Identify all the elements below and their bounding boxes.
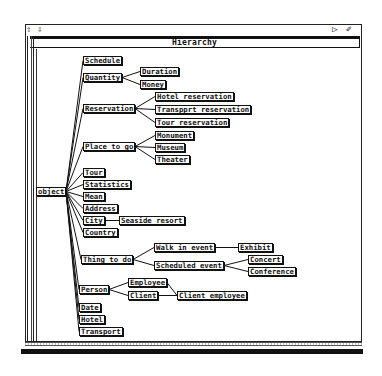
tree-node-schedule[interactable]: Schedule xyxy=(83,56,122,65)
tree-node-conference[interactable]: Conference xyxy=(248,267,296,276)
tree-node-exhibit[interactable]: Exhibit xyxy=(238,243,273,252)
tree-node-money[interactable]: Money xyxy=(140,80,166,89)
tree-node-quantity[interactable]: Quantity xyxy=(83,73,122,82)
tree-node-address[interactable]: Address xyxy=(83,204,118,213)
tree-node-person[interactable]: Person xyxy=(79,285,109,294)
tree-node-statistics[interactable]: Statistics xyxy=(83,180,131,189)
tree-node-tour[interactable]: Tour xyxy=(83,168,105,177)
tree-node-date[interactable]: Date xyxy=(79,303,101,312)
tree-node-country[interactable]: Country xyxy=(83,228,118,237)
tree-node-tour-res[interactable]: Tour_reservation xyxy=(155,118,229,127)
tree-node-theater[interactable]: Theater xyxy=(155,155,190,164)
tree-node-mean[interactable]: Mean xyxy=(83,192,105,201)
tree-node-hotel-res[interactable]: Hotel_reservation xyxy=(155,92,234,101)
tree-node-object[interactable]: object xyxy=(36,187,66,196)
tree-node-thing-to-do[interactable]: Thing_to_do xyxy=(81,255,133,264)
tree-node-employee[interactable]: Employee xyxy=(128,278,167,287)
tree-node-museum[interactable]: Museum xyxy=(155,143,185,152)
tree-node-place-to-go[interactable]: Place_to_go xyxy=(83,142,135,151)
tree-node-client[interactable]: Client xyxy=(128,291,158,300)
tree-node-concert[interactable]: Concert xyxy=(248,255,283,264)
tree-node-transport[interactable]: Transport xyxy=(79,327,123,336)
tree-node-scheduled-event[interactable]: Scheduled_event xyxy=(154,261,224,270)
tree-node-duration[interactable]: Duration xyxy=(140,67,179,76)
tree-node-seaside-resort[interactable]: Seaside_resort xyxy=(119,216,185,225)
tree-node-monument[interactable]: Monument xyxy=(155,131,194,140)
tree-node-city[interactable]: City xyxy=(83,216,105,225)
tree-node-client-employee[interactable]: Client_employee xyxy=(177,291,247,300)
tree-node-hotel[interactable]: Hotel xyxy=(79,315,105,324)
tree-node-transport-res[interactable]: Transpprt_reservation xyxy=(155,105,251,114)
tree-node-walk-in-event[interactable]: Walk_in_event xyxy=(154,243,215,252)
tree-node-reservation[interactable]: Reservation xyxy=(83,104,135,113)
